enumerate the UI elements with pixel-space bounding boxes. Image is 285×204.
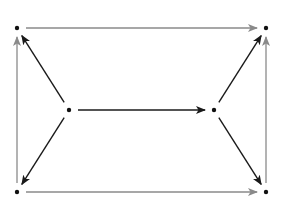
- node-mid-left: [67, 108, 71, 112]
- edge-mid-right-to-top-right: [219, 36, 261, 103]
- node-bottom-right: [264, 190, 268, 194]
- edge-mid-right-to-bottom-right: [219, 118, 261, 185]
- node-bottom-left: [15, 190, 19, 194]
- node-top-left: [15, 26, 19, 30]
- node-top-right: [264, 26, 268, 30]
- edge-mid-left-to-bottom-left: [22, 118, 64, 185]
- directed-graph-diagram: [0, 0, 285, 204]
- edge-mid-left-to-top-left: [22, 36, 64, 103]
- node-mid-right: [212, 108, 216, 112]
